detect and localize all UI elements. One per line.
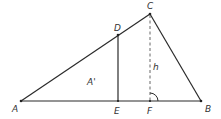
point-c xyxy=(149,13,152,16)
point-f xyxy=(149,100,151,102)
point-d xyxy=(117,34,120,37)
point-a xyxy=(20,100,23,103)
label-b: B xyxy=(205,104,211,114)
label-c: C xyxy=(147,1,154,11)
label-area: A' xyxy=(86,77,96,87)
label-height: h xyxy=(153,62,159,72)
label-e: E xyxy=(114,106,120,116)
right-angle-arc-icon xyxy=(150,93,158,101)
point-b xyxy=(200,100,203,103)
segment-cb xyxy=(150,14,201,101)
segment-ac xyxy=(21,14,150,101)
label-f: F xyxy=(147,106,153,116)
label-d: D xyxy=(114,23,121,33)
point-e xyxy=(117,100,119,102)
label-a: A xyxy=(11,104,18,114)
triangle-diagram: A B C D E F h A' xyxy=(0,0,221,119)
